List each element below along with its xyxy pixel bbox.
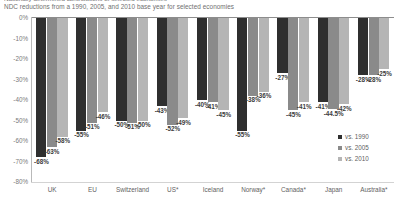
bar: [379, 18, 389, 69]
x-axis-line: [31, 182, 394, 183]
x-tick-label: EU: [88, 186, 97, 193]
bar-value-label: -63%: [41, 148, 64, 155]
legend-label: vs. 2010: [345, 155, 369, 162]
bar: [218, 18, 228, 110]
bar: [277, 18, 287, 73]
bar-value-label: -52%: [162, 125, 185, 132]
bar-value-label: -28%: [363, 76, 386, 83]
legend-item[interactable]: vs. 1990: [338, 131, 369, 142]
bar: [98, 18, 108, 112]
bar-value-label: -45%: [212, 111, 235, 118]
bar-value-label: -55%: [70, 131, 93, 138]
bar-value-label: -58%: [52, 137, 75, 144]
x-tick-label: Iceland: [203, 186, 224, 193]
bar: [328, 18, 338, 109]
bar: [178, 18, 188, 118]
bar-group: -55%-51%-46%: [76, 18, 108, 182]
legend-swatch-icon: [338, 135, 342, 139]
bar: [197, 18, 207, 100]
y-axis-tick-labels: 0%-10%-20%-30%-40%-50%-60%-70%-80%: [0, 17, 28, 183]
x-tick-label: UK: [48, 186, 57, 193]
bar-value-label: -55%: [231, 131, 254, 138]
bar-value-label: -25%: [373, 70, 396, 77]
bar-value-label: -46%: [92, 113, 115, 120]
bar: [318, 18, 328, 102]
bar-group: -43%-52%-49%: [157, 18, 189, 182]
y-tick-label: -70%: [13, 157, 28, 164]
bar: [76, 18, 86, 131]
x-tick-label: Canada*: [281, 186, 306, 193]
x-axis-category-labels: UKEUSwitzerlandUS*IcelandNorway*Canada*J…: [32, 186, 394, 200]
bar-value-label: -51%: [81, 123, 104, 130]
chart-title-clipped: Nationally determined contributions of s…: [4, 0, 384, 2]
x-tick-label: Australia*: [360, 186, 387, 193]
y-tick-label: -10%: [13, 34, 28, 41]
bar: [288, 18, 298, 110]
bar: [47, 18, 57, 147]
legend-label: vs. 1990: [345, 133, 369, 140]
bar: [358, 18, 368, 75]
bar-value-label: -68%: [30, 158, 53, 165]
bar-group: -68%-63%-58%: [36, 18, 68, 182]
y-tick-label: -50%: [13, 116, 28, 123]
y-tick-label: -40%: [13, 96, 28, 103]
legend-label: vs. 2005: [345, 144, 369, 151]
bar-value-label: -49%: [172, 119, 195, 126]
y-tick-label: -20%: [13, 55, 28, 62]
bar: [339, 18, 349, 104]
bar-group: -55%-38%-36%: [237, 18, 269, 182]
x-tick-label: Switzerland: [116, 186, 149, 193]
bar: [157, 18, 167, 106]
bar-group: -40%-41%-45%: [197, 18, 229, 182]
bar: [57, 18, 67, 137]
bar-value-label: -36%: [253, 92, 276, 99]
bar: [138, 18, 148, 121]
x-tick-label: US*: [167, 186, 178, 193]
bar: [87, 18, 97, 123]
bar-value-label: -42%: [333, 105, 356, 112]
y-tick-label: -60%: [13, 137, 28, 144]
x-tick-label: Japan: [325, 186, 342, 193]
y-tick-label: 0%: [19, 14, 28, 21]
bar-group: -27%-45%-41%: [277, 18, 309, 182]
bar: [369, 18, 379, 75]
bar: [36, 18, 46, 157]
chart-subtitle: NDC reductions from a 1990, 2005, and 20…: [4, 3, 234, 10]
chart-legend: vs. 1990vs. 2005vs. 2010: [338, 131, 369, 164]
y-tick-label: -30%: [13, 75, 28, 82]
bar: [248, 18, 258, 96]
bar-value-label: -50%: [132, 121, 155, 128]
legend-swatch-icon: [338, 146, 342, 150]
bar: [116, 18, 126, 121]
bar: [127, 18, 137, 123]
bar-group: -50%-51%-50%: [116, 18, 148, 182]
legend-item[interactable]: vs. 2005: [338, 142, 369, 153]
bar-value-label: -45%: [282, 111, 305, 118]
legend-item[interactable]: vs. 2010: [338, 153, 369, 164]
chart-figure: Nationally determined contributions of s…: [0, 0, 402, 205]
x-tick-label: Norway*: [241, 186, 265, 193]
bar: [259, 18, 269, 92]
bar: [167, 18, 177, 125]
bar: [208, 18, 218, 102]
bar: [299, 18, 309, 102]
y-tick-label: -80%: [13, 178, 28, 185]
legend-swatch-icon: [338, 157, 342, 161]
bar: [237, 18, 247, 131]
